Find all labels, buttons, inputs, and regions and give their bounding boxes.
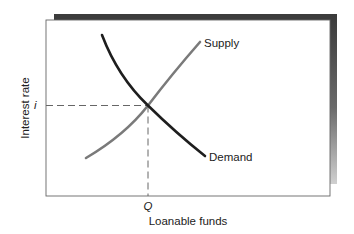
supply-demand-chart: Supply Demand i Q Loanable funds Interes… bbox=[0, 0, 354, 234]
equilibrium-rate-tick-label: i bbox=[34, 99, 37, 111]
x-axis-label: Loanable funds bbox=[149, 215, 228, 227]
plot-frame bbox=[46, 20, 330, 196]
demand-label: Demand bbox=[209, 151, 252, 163]
frame-shadow-right bbox=[330, 14, 337, 184]
equilibrium-quantity-tick-label: Q bbox=[144, 200, 153, 212]
supply-label: Supply bbox=[204, 37, 239, 49]
y-axis-label: Interest rate bbox=[19, 77, 31, 138]
